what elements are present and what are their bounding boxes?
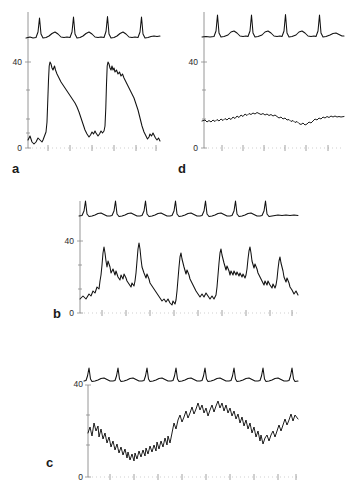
panel-c: 40 0 c xyxy=(40,365,310,493)
panel-b-plot: 40 0 xyxy=(40,195,310,335)
panel-b: 40 0 b xyxy=(40,195,310,335)
panel-b-letter: b xyxy=(53,307,61,320)
panel-a-pressure-trace xyxy=(28,62,160,144)
panel-b-ylabel-0: 0 xyxy=(69,308,74,318)
panel-b-ecg-trace xyxy=(79,201,298,217)
panel-d-ylabel-40: 40 xyxy=(189,57,199,67)
panel-b-ylabel-40: 40 xyxy=(65,236,75,246)
panel-a-letter: a xyxy=(12,162,19,175)
panel-c-plot: 40 0 xyxy=(40,365,310,493)
panel-a-ecg-trace xyxy=(26,17,160,39)
panel-c-ylabel-0: 0 xyxy=(78,472,83,482)
panel-d-ylabel-0: 0 xyxy=(193,143,198,153)
panel-d-plot: 40 0 xyxy=(178,0,356,185)
panel-c-pressure-trace xyxy=(88,401,298,461)
physiological-waveform-figure: 40 0 a 40 0 xyxy=(0,0,356,496)
panel-b-x-ticks xyxy=(102,310,292,316)
panel-b-pressure-trace xyxy=(80,243,298,305)
panel-c-ylabel-40: 40 xyxy=(74,379,84,389)
panel-a: 40 0 a xyxy=(0,0,178,185)
panel-a-ylabel-0: 0 xyxy=(17,143,22,153)
panel-a-plot: 40 0 xyxy=(0,0,178,185)
panel-c-letter: c xyxy=(46,456,53,469)
panel-d-ecg-trace xyxy=(202,15,344,38)
panel-d-pressure-trace xyxy=(202,113,344,126)
panel-a-ylabel-40: 40 xyxy=(13,57,23,67)
panel-d-letter: d xyxy=(178,162,186,175)
panel-d: 40 0 d xyxy=(178,0,356,185)
panel-c-ecg-trace xyxy=(84,368,298,382)
